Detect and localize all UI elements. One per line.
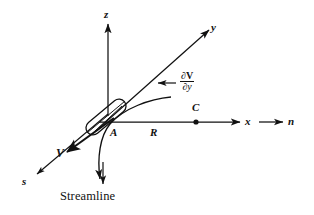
velocity-label-v: V (56, 147, 64, 159)
radius-label-r: R (150, 127, 157, 138)
axis-s (37, 114, 108, 174)
axis-label-x: x (245, 116, 251, 127)
derivative-numerator: ∂V (180, 71, 194, 81)
derivative-denominator: ∂y (180, 81, 194, 92)
derivative-denominator-variable: y (187, 81, 191, 92)
partial-derivative-label: ∂V ∂y (180, 71, 194, 92)
figure-canvas: z y x n s A C R V Streamline ∂V ∂y (0, 0, 314, 215)
point-label-c: C (192, 102, 199, 113)
streamline-label: Streamline (60, 190, 115, 203)
diagram-svg (0, 0, 314, 215)
streamline-curve (99, 97, 171, 179)
derivative-numerator-variable: V (186, 70, 193, 81)
point-c-marker (193, 119, 198, 124)
axis-label-z: z (104, 9, 108, 20)
axis-label-n: n (288, 116, 294, 127)
fluid-element (83, 96, 129, 138)
axis-label-y: y (211, 22, 216, 33)
axis-label-s: s (22, 176, 26, 187)
point-label-a: A (110, 127, 117, 138)
